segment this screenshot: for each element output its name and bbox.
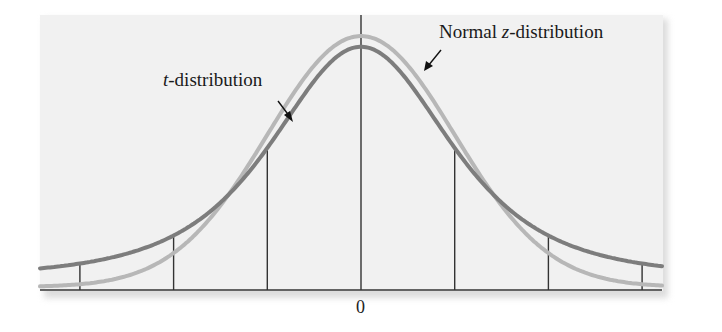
normal-z-distribution-label: Normal z-distribution <box>439 22 603 41</box>
sd-reference-lines <box>80 15 642 290</box>
plot-area <box>0 0 722 332</box>
normal-label-prefix: Normal <box>439 21 502 42</box>
t-vs-normal-figure: t-distribution Normal z-distribution 0 <box>0 0 722 332</box>
t-label-text: -distribution <box>168 69 262 90</box>
arrow-normal-icon <box>424 50 441 71</box>
x-tick-label-zero: 0 <box>356 298 365 316</box>
t-distribution-label: t-distribution <box>163 70 262 89</box>
t-distribution-curve <box>40 47 662 269</box>
normal-z-curve <box>40 36 662 286</box>
normal-label-text: -distribution <box>509 21 603 42</box>
